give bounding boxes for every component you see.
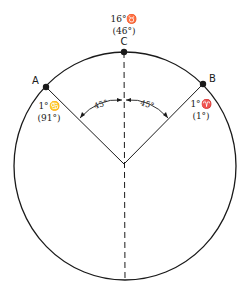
point-a-sign: 1°♋ xyxy=(34,101,64,111)
arrowhead-icon xyxy=(163,112,168,118)
arrowhead-icon xyxy=(117,98,122,102)
point-b-degree: (1°) xyxy=(186,111,216,121)
point-a-degree: (91°) xyxy=(34,113,64,123)
point-c-degree: (46°) xyxy=(104,26,144,36)
arrowhead-icon xyxy=(126,98,131,102)
radius-to-b xyxy=(124,84,203,164)
point-b-dot xyxy=(200,81,206,87)
dashed-axis xyxy=(124,52,125,280)
radius-to-a xyxy=(46,87,124,164)
arrowhead-icon xyxy=(80,112,85,118)
point-a-dot xyxy=(43,84,49,90)
point-b-sign: 1°♈ xyxy=(186,99,216,109)
point-c-sign: 16°♉ xyxy=(104,14,144,24)
point-c-label: C xyxy=(114,37,134,47)
point-b-label: B xyxy=(209,74,216,84)
point-a-label: A xyxy=(32,76,39,86)
point-c-dot xyxy=(121,49,127,55)
